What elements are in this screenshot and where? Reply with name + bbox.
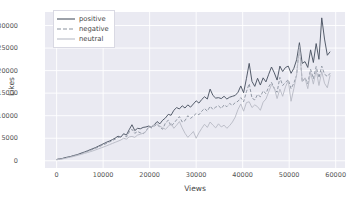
chart-legend: positive negative neutral: [53, 10, 115, 48]
chart-figure: 050001000015000200002500030000 010000200…: [0, 0, 362, 203]
x-tick-label: 50000: [267, 172, 311, 179]
legend-swatch-negative: [57, 25, 75, 33]
x-tick-label: 10000: [81, 172, 125, 179]
legend-item-positive: positive: [57, 14, 109, 24]
legend-swatch-neutral: [57, 35, 75, 43]
x-tick-label: 0: [35, 172, 79, 179]
legend-label-positive: positive: [79, 16, 106, 23]
legend-label-neutral: neutral: [79, 36, 103, 43]
legend-item-negative: negative: [57, 24, 109, 34]
legend-item-neutral: neutral: [57, 34, 109, 44]
y-tick-label: 0: [0, 158, 18, 165]
x-tick-label: 30000: [174, 172, 218, 179]
legend-swatch-positive: [57, 15, 75, 23]
x-axis-label: Views: [45, 184, 345, 193]
y-tick-label: 30000: [0, 23, 18, 30]
legend-label-negative: negative: [79, 26, 109, 33]
x-tick-label: 60000: [314, 172, 358, 179]
x-tick-label: 20000: [128, 172, 172, 179]
y-axis-label: Likes: [7, 52, 16, 122]
x-tick-label: 40000: [221, 172, 265, 179]
y-tick-label: 5000: [0, 135, 18, 142]
